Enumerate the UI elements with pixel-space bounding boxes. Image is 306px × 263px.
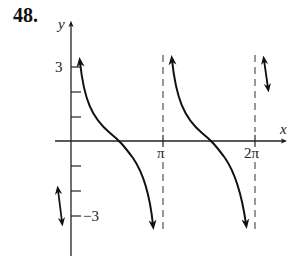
curve-branch-2 bbox=[172, 60, 246, 224]
y-axis: y bbox=[56, 16, 71, 256]
problem-number: 48. bbox=[13, 4, 38, 26]
y-axis-label: y bbox=[56, 16, 65, 32]
graph-canvas: 48. y x 3 −3 π 2π bbox=[0, 0, 306, 263]
x-tick-label-pi: π bbox=[157, 145, 165, 161]
x-axis: x bbox=[55, 121, 287, 141]
asymptotes bbox=[163, 55, 255, 230]
double-arrow-upper-right-icon bbox=[264, 60, 268, 88]
curve-branch-1 bbox=[80, 62, 153, 225]
double-arrow-lower-left-icon bbox=[58, 190, 62, 222]
y-tick-label-3: 3 bbox=[55, 59, 63, 75]
y-tick-label-neg3: −3 bbox=[83, 208, 99, 224]
x-tick-label-2pi: 2π bbox=[244, 145, 260, 161]
x-axis-label: x bbox=[279, 121, 287, 137]
